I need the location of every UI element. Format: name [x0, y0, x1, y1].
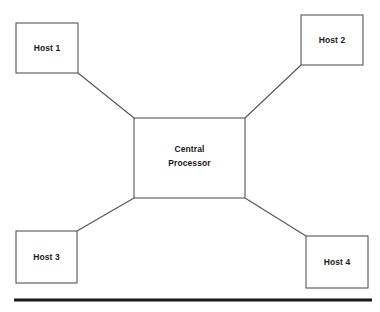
host-2-label: Host 2 [319, 35, 346, 45]
node-host-3: Host 3 [16, 231, 77, 283]
link-host-1-to-center [78, 73, 134, 118]
link-host-4-to-center [245, 198, 306, 236]
host-4-label: Host 4 [324, 257, 351, 267]
host-3-label: Host 3 [33, 252, 60, 262]
network-topology-diagram: Host 1 Host 2 Host 3 Host 4 Central Proc… [0, 0, 380, 312]
node-central-processor: Central Processor [134, 118, 245, 198]
node-host-4: Host 4 [306, 236, 368, 288]
central-processor-label-line1: Central [175, 144, 205, 154]
host-1-label: Host 1 [34, 43, 61, 53]
node-host-1: Host 1 [16, 23, 78, 73]
node-host-2: Host 2 [301, 15, 363, 65]
link-host-3-to-center [77, 198, 134, 231]
link-host-2-to-center [245, 65, 301, 118]
central-processor-label-line2: Processor [168, 158, 211, 168]
diagram-canvas: Host 1 Host 2 Host 3 Host 4 Central Proc… [0, 0, 380, 312]
